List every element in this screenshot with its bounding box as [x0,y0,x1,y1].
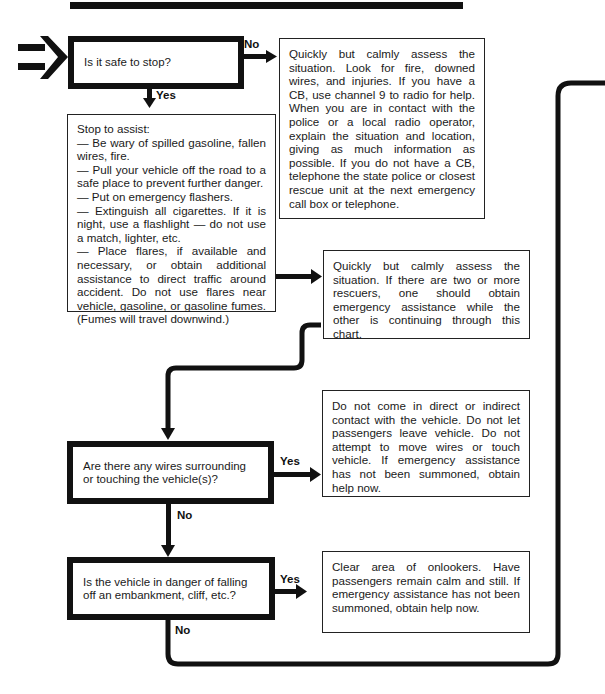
connector-assess-to-wires [168,325,321,432]
arrow-wires-yes [274,467,321,482]
stop-item: — Extinguish all cigarettes. If it is ni… [77,204,266,245]
arrow-start-no [241,50,277,63]
question-text: Is the vehicle in danger of falling off … [83,576,259,602]
action-not-safe: Quickly but calmly assess the situation.… [279,38,485,219]
stop-heading: Stop to assist: [77,122,266,136]
stop-item: — Pull your vehicle off the road to a sa… [77,163,266,190]
arrow-start-yes [143,86,156,108]
question-safe-to-stop: Is it safe to stop? [68,36,244,89]
action-wires: Do not come in direct or indirect contac… [322,390,530,497]
label-no: No [244,38,259,50]
stop-item: — Place flares, if available and necessa… [77,244,266,326]
assess-text: Quickly but calmly assess the situation.… [333,259,520,341]
question-text: Are there any wires surrounding or touch… [83,460,258,486]
question-text: Is it safe to stop? [84,56,171,69]
action-text: Do not come in direct or indirect contac… [332,399,520,494]
label-no: No [175,624,190,636]
label-yes: Yes [156,89,176,101]
label-yes: Yes [280,573,300,585]
question-wires: Are there any wires surrounding or touch… [67,441,274,504]
action-text: Clear area of onlookers. Have passengers… [332,560,520,614]
arrow-head-wires [161,428,175,440]
arrow-falling-yes [274,584,307,599]
arrow-assist-to-assess [275,269,322,284]
stop-item: — Put on emergency flashers. [77,190,266,204]
assess-box: Quickly but calmly assess the situation.… [323,250,530,339]
label-no: No [177,509,192,521]
question-falling: Is the vehicle in danger of falling off … [67,557,275,620]
arrow-wires-no [161,502,175,557]
label-yes: Yes [280,455,300,467]
action-falling: Clear area of onlookers. Have passengers… [322,551,530,633]
action-text: Quickly but calmly assess the situation.… [289,47,475,210]
stop-to-assist-box: Stop to assist: — Be wary of spilled gas… [67,114,276,312]
entry-arrow-icon [18,36,68,79]
top-rule [70,2,463,9]
stop-item: — Be wary of spilled gasoline, fallen wi… [77,136,266,163]
